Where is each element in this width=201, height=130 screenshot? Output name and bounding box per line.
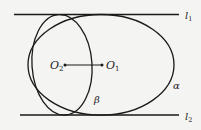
point-o2 — [64, 64, 67, 67]
geometry-diagram: O2 O1 β α l1 l2 — [0, 0, 201, 130]
label-alpha: α — [173, 80, 180, 91]
label-o2: O2 — [50, 59, 64, 73]
label-o1: O1 — [106, 59, 120, 73]
label-l1: l1 — [185, 10, 192, 23]
point-o1 — [101, 64, 104, 67]
label-beta: β — [93, 94, 100, 105]
label-l2: l2 — [185, 111, 192, 124]
